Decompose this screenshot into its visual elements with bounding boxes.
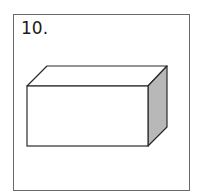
prism-front-face	[27, 86, 148, 146]
prism-top-face	[27, 66, 167, 86]
rectangular-prism-drawing	[0, 0, 197, 195]
